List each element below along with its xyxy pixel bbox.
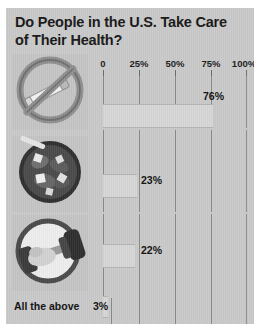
gridline-row3-50 — [175, 214, 176, 298]
axis-tick-label-75: 75% — [201, 58, 220, 69]
category-label-all-the-above: All the above — [14, 300, 79, 312]
gridline-row2-50 — [175, 130, 176, 212]
gridline-row4-25 — [139, 298, 140, 324]
gridline-row2-25 — [139, 130, 140, 212]
gridline-row2-100 — [246, 130, 247, 212]
bar-value-row3: 22% — [141, 244, 162, 256]
page-title: Do People in the U.S. Take Care of Their… — [15, 14, 230, 49]
gridline-row1-100 — [246, 76, 247, 128]
axis-tick-label-0: 0 — [100, 58, 105, 69]
bar-value-row2: 23% — [141, 174, 162, 186]
infographic-panel: Do People in the U.S. Take Care of Their… — [6, 8, 254, 324]
axis-tick-label-25: 25% — [129, 58, 148, 69]
gridline-row4-75 — [211, 298, 212, 324]
gridline-row3-75 — [211, 214, 212, 298]
gridline-row4-0 — [111, 298, 112, 324]
bar-row3 — [103, 244, 135, 268]
axis-tick-label-50: 50% — [165, 58, 184, 69]
axis-tick-label-100: 100% — [232, 58, 254, 69]
no-smoking-icon — [12, 54, 88, 130]
bar-row1 — [103, 104, 213, 128]
gridline-row3-25 — [139, 214, 140, 298]
bar-value-row4: 3% — [93, 300, 108, 312]
gridline-row2-0 — [103, 130, 104, 212]
bar-row2 — [103, 174, 137, 198]
dumbbell-icon — [12, 215, 88, 291]
gridline-row2-75 — [211, 130, 212, 212]
gridline-row4-50 — [175, 298, 176, 324]
healthy-food-bowl-icon — [12, 136, 88, 212]
gridline-row4-100 — [246, 298, 247, 324]
gridline-row3-100 — [246, 214, 247, 298]
bar-value-row1: 76% — [203, 90, 224, 102]
